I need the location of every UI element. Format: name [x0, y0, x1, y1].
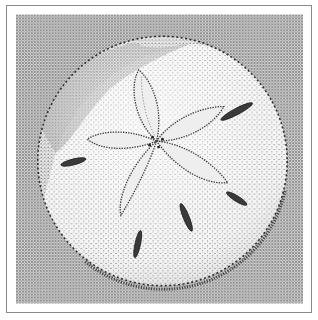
- illustration-frame: [6, 5, 312, 313]
- sand-dollar-illustration: [16, 14, 303, 304]
- illustration-canvas: [16, 14, 303, 304]
